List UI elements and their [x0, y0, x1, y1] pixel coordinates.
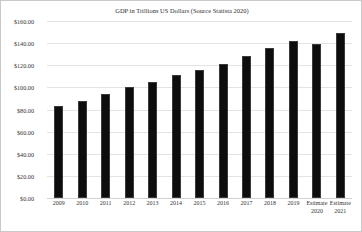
x-tick-label: 2012 [117, 200, 140, 215]
y-tick-label: $80.00 [0, 107, 34, 114]
y-tick-label: $40.00 [0, 151, 34, 158]
x-tick-label-line: 2013 [147, 200, 159, 206]
x-tick-label: 2017 [235, 200, 258, 215]
x-axis-tick-labels: 2009201020112012201320142015201620172018… [47, 200, 352, 215]
x-tick-label: Estimate2020 [305, 200, 328, 215]
x-tick-label-line: 2010 [76, 200, 88, 206]
bar [101, 94, 110, 198]
bar [125, 87, 134, 198]
bar [54, 106, 63, 198]
bar-slot [305, 21, 328, 198]
bar-slot [188, 21, 211, 198]
y-tick-label: $120.00 [0, 62, 34, 69]
bar [219, 64, 228, 198]
x-tick-label-line: 2014 [170, 200, 182, 206]
x-tick-label-line: 2021 [329, 208, 352, 216]
y-tick-label: $0.00 [0, 195, 34, 202]
plot-area: $0.00$20.00$40.00$60.00$80.00$100.00$120… [47, 21, 352, 198]
y-tick-label: $140.00 [0, 40, 34, 47]
bar-slot [117, 21, 140, 198]
bar-slot [211, 21, 234, 198]
bar-slot [47, 21, 70, 198]
bar-slot [141, 21, 164, 198]
x-tick-label-line: 2018 [264, 200, 276, 206]
x-tick-label-line: 2017 [240, 200, 252, 206]
y-tick-label: $60.00 [0, 129, 34, 136]
bar [148, 82, 157, 198]
bar-slot [282, 21, 305, 198]
chart-figure: GDP in Trillions US Dollars (Source Stat… [0, 0, 362, 232]
y-tick-label: $160.00 [0, 18, 34, 25]
bar-slot [164, 21, 187, 198]
x-tick-label: 2010 [70, 200, 93, 215]
bar [312, 44, 321, 198]
x-tick-label: 2015 [188, 200, 211, 215]
bar-series [47, 21, 352, 198]
x-tick-label: Estimate2021 [329, 200, 352, 215]
y-tick-label: $20.00 [0, 173, 34, 180]
x-tick-label: 2011 [94, 200, 117, 215]
bar [172, 75, 181, 198]
x-tick-label-line: Estimate [306, 200, 327, 206]
gridline [47, 198, 352, 199]
x-tick-label: 2018 [258, 200, 281, 215]
x-tick-label-line: Estimate [330, 200, 351, 206]
bar-slot [258, 21, 281, 198]
x-tick-label: 2009 [47, 200, 70, 215]
bar [78, 101, 87, 198]
x-tick-label-line: 2015 [194, 200, 206, 206]
x-tick-label: 2019 [282, 200, 305, 215]
y-tick-label: $100.00 [0, 84, 34, 91]
bar-slot [329, 21, 352, 198]
chart-title: GDP in Trillions US Dollars (Source Stat… [1, 7, 362, 14]
bar [265, 48, 274, 198]
x-tick-label: 2014 [164, 200, 187, 215]
bar-slot [70, 21, 93, 198]
x-tick-label-line: 2012 [123, 200, 135, 206]
bar-slot [235, 21, 258, 198]
bar-slot [94, 21, 117, 198]
bar [336, 33, 345, 198]
x-tick-label: 2016 [211, 200, 234, 215]
x-tick-label: 2013 [141, 200, 164, 215]
x-tick-label-line: 2020 [305, 208, 328, 216]
x-tick-label-line: 2011 [100, 200, 112, 206]
x-tick-label-line: 2019 [287, 200, 299, 206]
bar [195, 70, 204, 198]
x-tick-label-line: 2016 [217, 200, 229, 206]
x-tick-label-line: 2009 [53, 200, 65, 206]
bar [242, 56, 251, 198]
bar [289, 41, 298, 198]
